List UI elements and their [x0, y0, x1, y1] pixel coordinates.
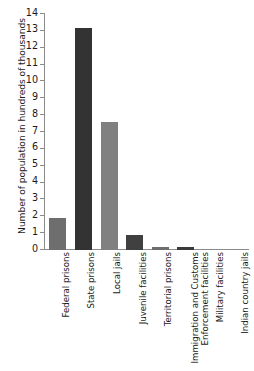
- x-tick-label: Immigration and CustomsEnforcement facil…: [191, 252, 210, 368]
- x-tick-label-line: Military facilities: [215, 252, 225, 322]
- x-tick-label: Indian country jails: [241, 252, 251, 368]
- y-tick-label: 7: [32, 125, 38, 137]
- x-tick-label: Federal prisons: [62, 252, 72, 368]
- y-tick-label: 2: [32, 209, 38, 221]
- y-tick-label: 10: [26, 74, 38, 86]
- y-tick-label: 11: [26, 57, 38, 69]
- x-axis-labels: Federal prisonsState prisonsLocal jailsJ…: [45, 252, 254, 371]
- y-tick-label: 13: [26, 23, 38, 35]
- y-tick-label: 14: [26, 7, 38, 19]
- bar: [101, 122, 118, 250]
- y-tick-label: 12: [26, 40, 38, 52]
- bar: [203, 249, 220, 250]
- bar: [177, 247, 194, 250]
- x-tick-label-line: Enforcement facilities: [201, 252, 211, 368]
- plot-area: 14131211109876543210: [44, 12, 250, 252]
- bars-layer: [45, 12, 250, 250]
- bar: [229, 249, 246, 250]
- y-tick-label: 6: [32, 141, 38, 153]
- y-tick-label: 1: [32, 226, 38, 238]
- x-tick-label-line: Local jails: [112, 252, 122, 294]
- x-tick-label-line: Immigration and Customs: [190, 252, 200, 363]
- bar-chart: Number of population in hundreds of thou…: [0, 0, 254, 371]
- y-tick-label: 8: [32, 108, 38, 120]
- bar: [126, 235, 143, 250]
- x-tick-label-line: Territorial prisons: [163, 252, 173, 326]
- y-tick-label: 4: [32, 175, 38, 187]
- x-tick-label: Local jails: [113, 252, 123, 368]
- bar: [75, 28, 92, 251]
- bar: [152, 247, 169, 250]
- bar: [49, 218, 66, 250]
- x-tick-label-line: Federal prisons: [61, 252, 71, 317]
- y-tick-label: 5: [32, 158, 38, 170]
- x-tick-label: Military facilities: [216, 252, 226, 368]
- x-tick-label-line: Juvenile facilities: [138, 252, 148, 324]
- x-tick-label: Territorial prisons: [164, 252, 174, 368]
- y-tick-label: 0: [32, 243, 38, 255]
- y-tick-label: 9: [32, 91, 38, 103]
- x-tick-label-line: State prisons: [86, 252, 96, 309]
- x-tick-label-line: Indian country jails: [240, 252, 250, 334]
- x-tick-label: State prisons: [87, 252, 97, 368]
- x-tick-label: Juvenile facilities: [139, 252, 149, 368]
- y-tick-label: 3: [32, 192, 38, 204]
